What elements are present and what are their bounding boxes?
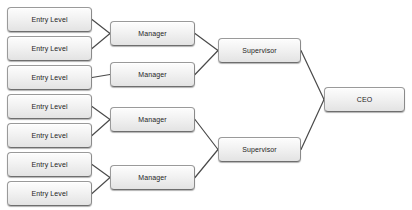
node-label: Entry Level — [31, 161, 67, 168]
node-label: Manager — [138, 30, 166, 37]
node-manager-4[interactable]: Manager — [110, 165, 195, 190]
connector-manager-2-to-supervisor-1 — [195, 51, 218, 75]
connector-entry-7-to-manager-4 — [92, 178, 110, 194]
node-label: Supervisor — [242, 47, 276, 54]
node-supervisor-2[interactable]: Supervisor — [218, 137, 301, 162]
connector-entry-4-to-manager-3 — [92, 107, 110, 120]
node-label: Entry Level — [31, 74, 67, 81]
connector-entry-1-to-manager-1 — [92, 20, 110, 34]
node-entry-7[interactable]: Entry Level — [7, 181, 92, 206]
connector-manager-1-to-supervisor-1 — [195, 34, 218, 51]
node-label: Manager — [138, 116, 166, 123]
connector-supervisor-1-to-ceo-1 — [301, 51, 324, 100]
connector-manager-3-to-supervisor-2 — [195, 120, 218, 150]
node-label: Entry Level — [31, 190, 67, 197]
node-manager-1[interactable]: Manager — [110, 21, 195, 46]
node-label: CEO — [357, 96, 372, 103]
node-label: Manager — [138, 174, 166, 181]
node-label: Entry Level — [31, 16, 67, 23]
node-entry-5[interactable]: Entry Level — [7, 123, 92, 148]
connector-entry-3-to-manager-2 — [92, 75, 110, 78]
node-entry-1[interactable]: Entry Level — [7, 7, 92, 32]
node-label: Entry Level — [31, 45, 67, 52]
node-label: Entry Level — [31, 132, 67, 139]
connector-entry-5-to-manager-3 — [92, 120, 110, 136]
node-ceo-1[interactable]: CEO — [324, 87, 405, 112]
connector-manager-4-to-supervisor-2 — [195, 150, 218, 178]
connector-entry-6-to-manager-4 — [92, 165, 110, 178]
connector-supervisor-2-to-ceo-1 — [301, 100, 324, 150]
node-label: Supervisor — [242, 146, 276, 153]
node-label: Manager — [138, 71, 166, 78]
org-chart-diagram: Entry LevelEntry LevelEntry LevelEntry L… — [0, 0, 412, 210]
node-entry-4[interactable]: Entry Level — [7, 94, 92, 119]
node-supervisor-1[interactable]: Supervisor — [218, 38, 301, 63]
node-entry-3[interactable]: Entry Level — [7, 65, 92, 90]
node-manager-2[interactable]: Manager — [110, 62, 195, 87]
node-entry-6[interactable]: Entry Level — [7, 152, 92, 177]
node-entry-2[interactable]: Entry Level — [7, 36, 92, 61]
node-manager-3[interactable]: Manager — [110, 107, 195, 132]
connector-entry-2-to-manager-1 — [92, 34, 110, 49]
node-label: Entry Level — [31, 103, 67, 110]
